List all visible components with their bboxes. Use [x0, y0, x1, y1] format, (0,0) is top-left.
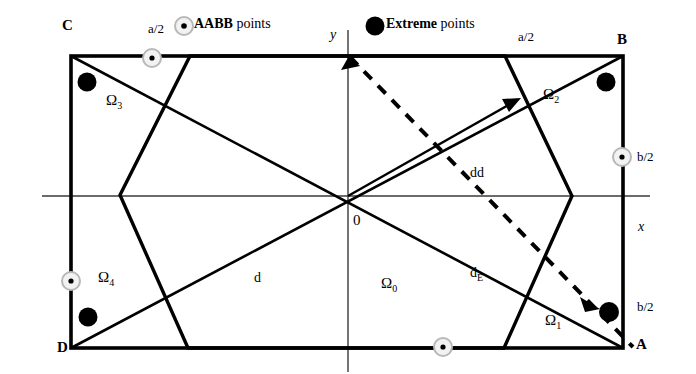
distance-label-dd: dd — [470, 166, 484, 183]
distance-de-sub: E — [477, 272, 483, 283]
region-omega4-sub: 4 — [109, 277, 114, 288]
region-omega2-glyph: Ω — [543, 86, 554, 102]
legend-extreme-bold: Extreme — [386, 16, 437, 31]
region-omega0-sub: 0 — [392, 283, 397, 294]
axis-label-y: y — [330, 28, 336, 42]
extreme-point-bottom-right — [599, 302, 619, 322]
distance-de-glyph: d — [470, 265, 477, 280]
dimension-label-b-half-lower: b/2 — [637, 300, 654, 313]
region-omega1-glyph: Ω — [545, 312, 556, 328]
extreme-point-bottom-left — [79, 308, 98, 327]
dimension-label-a-half-right: a/2 — [518, 30, 534, 43]
aabb-point-top — [143, 49, 161, 67]
aabb-point-left — [62, 272, 80, 290]
region-omega0-glyph: Ω — [381, 275, 392, 291]
corner-label-c: C — [62, 18, 73, 33]
region-label-omega1: Ω1 — [545, 313, 561, 331]
distance-d-glyph: d — [254, 270, 261, 285]
distance-label-d: d — [254, 271, 261, 288]
geometry-diagram — [0, 0, 696, 374]
dimension-label-a-half-left: a/2 — [148, 22, 164, 35]
corner-label-a: A — [636, 337, 647, 352]
aabb-point-bottom — [434, 338, 452, 356]
dimension-label-b-half-upper: b/2 — [637, 150, 654, 163]
de-arrowhead — [580, 297, 600, 312]
legend-aabb-bold: AABB — [194, 16, 233, 31]
region-label-omega0: Ω0 — [381, 276, 397, 294]
distance-label-de: dE — [470, 266, 483, 283]
extreme-point-top-left — [78, 73, 97, 92]
legend-extreme-rest: points — [437, 16, 475, 31]
region-omega2-sub: 2 — [554, 94, 559, 105]
corner-label-b: B — [617, 32, 627, 47]
corner-label-d: D — [57, 340, 68, 355]
legend-extreme-label: Extreme points — [386, 17, 475, 31]
distance-dd-glyph: dd — [470, 165, 484, 180]
figure-canvas: AABB points Extreme points C B D A a/2 a… — [0, 0, 696, 374]
region-label-omega3: Ω3 — [106, 93, 122, 111]
region-label-omega4: Ω4 — [98, 270, 114, 288]
region-omega4-glyph: Ω — [98, 269, 109, 285]
extreme-point-top-right — [597, 73, 616, 92]
region-label-omega2: Ω2 — [543, 87, 559, 105]
legend-aabb-label: AABB points — [194, 17, 271, 31]
axis-label-x: x — [638, 220, 644, 234]
origin-to-omega2-arrow-shaft — [348, 103, 512, 196]
legend-extreme-marker — [366, 17, 385, 36]
region-omega3-glyph: Ω — [106, 92, 117, 108]
origin-label: 0 — [353, 213, 361, 228]
region-omega3-sub: 3 — [117, 100, 122, 111]
origin-to-omega2-arrowhead — [502, 98, 521, 112]
legend-aabb-marker — [175, 17, 193, 35]
region-omega1-sub: 1 — [556, 320, 561, 331]
aabb-point-right — [613, 148, 631, 166]
legend-aabb-rest: points — [233, 16, 271, 31]
